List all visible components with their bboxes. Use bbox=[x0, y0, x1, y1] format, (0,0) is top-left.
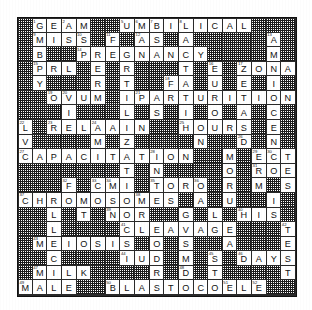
letter-cell-r14-c11[interactable]: V bbox=[179, 222, 194, 237]
letter-cell-r17-c18[interactable]: T bbox=[281, 266, 296, 281]
letter-cell-r2-c17[interactable]: M bbox=[267, 47, 282, 62]
letter-cell-r19-c14[interactable]: A bbox=[223, 295, 238, 296]
letter-cell-r2-c12[interactable]: Y bbox=[194, 47, 209, 62]
letter-cell-r14-c14[interactable]: E bbox=[223, 222, 238, 237]
letter-cell-r7-c5[interactable]: 24A bbox=[91, 120, 106, 135]
letter-cell-r5-c17[interactable]: O bbox=[267, 91, 282, 106]
letter-cell-r6-c3[interactable]: I bbox=[62, 105, 77, 120]
letter-cell-r7-c7[interactable]: I bbox=[120, 120, 135, 135]
letter-cell-r4-c5[interactable]: R bbox=[91, 76, 106, 91]
letter-cell-r18-c10[interactable]: T bbox=[164, 280, 179, 295]
letter-cell-r18-c1[interactable]: A bbox=[33, 280, 48, 295]
letter-cell-r0-c4[interactable]: M bbox=[77, 18, 92, 33]
letter-cell-r7-c0[interactable]: 22L bbox=[18, 120, 33, 135]
letter-cell-r18-c8[interactable]: A bbox=[135, 280, 150, 295]
letter-cell-r8-c5[interactable]: M bbox=[91, 135, 106, 150]
letter-cell-r3-c17[interactable]: N bbox=[267, 62, 282, 77]
letter-cell-r18-c0[interactable]: 49M bbox=[18, 280, 33, 295]
letter-cell-r13-c11[interactable]: G bbox=[179, 208, 194, 223]
letter-cell-r12-c8[interactable]: 38M bbox=[135, 193, 150, 208]
letter-cell-r2-c11[interactable]: C bbox=[179, 47, 194, 62]
letter-cell-r10-c9[interactable]: N bbox=[150, 164, 165, 179]
letter-cell-r14-c10[interactable]: A bbox=[164, 222, 179, 237]
letter-cell-r0-c10[interactable]: I bbox=[164, 18, 179, 33]
letter-cell-r18-c16[interactable]: 52E bbox=[252, 280, 267, 295]
letter-cell-r18-c13[interactable]: O bbox=[208, 280, 223, 295]
letter-cell-r2-c7[interactable]: G bbox=[120, 47, 135, 62]
letter-cell-r7-c13[interactable]: U bbox=[208, 120, 223, 135]
letter-cell-r12-c10[interactable]: S bbox=[164, 193, 179, 208]
letter-cell-r5-c3[interactable]: 20V bbox=[62, 91, 77, 106]
letter-cell-r11-c9[interactable]: 35T bbox=[150, 178, 165, 193]
letter-cell-r12-c1[interactable]: H bbox=[33, 193, 48, 208]
letter-cell-r15-c1[interactable]: 43M bbox=[33, 237, 48, 252]
letter-cell-r9-c8[interactable]: T bbox=[135, 149, 150, 164]
letter-cell-r19-c8[interactable]: E bbox=[135, 295, 150, 296]
letter-cell-r10-c14[interactable]: O bbox=[223, 164, 238, 179]
letter-cell-r18-c15[interactable]: L bbox=[237, 280, 252, 295]
letter-cell-r5-c16[interactable]: I bbox=[252, 91, 267, 106]
letter-cell-r12-c7[interactable]: O bbox=[120, 193, 135, 208]
letter-cell-r19-c13[interactable]: 53M bbox=[208, 295, 223, 296]
letter-cell-r13-c2[interactable]: L bbox=[47, 208, 62, 223]
letter-cell-r3-c18[interactable]: A bbox=[281, 62, 296, 77]
letter-cell-r0-c13[interactable]: C bbox=[208, 18, 223, 33]
letter-cell-r11-c18[interactable]: S bbox=[281, 178, 296, 193]
letter-cell-r15-c11[interactable]: S bbox=[179, 237, 194, 252]
letter-cell-r11-c3[interactable]: 32F bbox=[62, 178, 77, 193]
letter-cell-r10-c18[interactable]: E bbox=[281, 164, 296, 179]
letter-cell-r15-c9[interactable]: O bbox=[150, 237, 165, 252]
letter-cell-r15-c7[interactable]: S bbox=[120, 237, 135, 252]
letter-cell-r5-c5[interactable]: M bbox=[91, 91, 106, 106]
letter-cell-r15-c18[interactable]: E bbox=[281, 237, 296, 252]
letter-cell-r18-c11[interactable]: O bbox=[179, 280, 194, 295]
letter-cell-r5-c11[interactable]: T bbox=[179, 91, 194, 106]
letter-cell-r16-c15[interactable]: 46D bbox=[237, 251, 252, 266]
letter-cell-r7-c11[interactable]: 25H bbox=[179, 120, 194, 135]
letter-cell-r9-c16[interactable]: 29E bbox=[252, 149, 267, 164]
letter-cell-r7-c2[interactable]: 23R bbox=[47, 120, 62, 135]
letter-cell-r3-c15[interactable]: 17Z bbox=[237, 62, 252, 77]
letter-cell-r5-c4[interactable]: U bbox=[77, 91, 92, 106]
letter-cell-r6-c15[interactable]: A bbox=[237, 105, 252, 120]
letter-cell-r2-c6[interactable]: E bbox=[106, 47, 121, 62]
letter-cell-r1-c6[interactable]: 11F bbox=[106, 33, 121, 48]
letter-cell-r17-c4[interactable]: K bbox=[77, 266, 92, 281]
letter-cell-r5-c7[interactable]: I bbox=[120, 91, 135, 106]
letter-cell-r12-c3[interactable]: O bbox=[62, 193, 77, 208]
letter-cell-r13-c16[interactable]: I bbox=[252, 208, 267, 223]
letter-cell-r13-c8[interactable]: R bbox=[135, 208, 150, 223]
letter-cell-r13-c13[interactable]: L bbox=[208, 208, 223, 223]
letter-cell-r0-c12[interactable]: I bbox=[194, 18, 209, 33]
letter-cell-r9-c6[interactable]: T bbox=[106, 149, 121, 164]
letter-cell-r3-c11[interactable]: T bbox=[179, 62, 194, 77]
letter-cell-r16-c18[interactable]: S bbox=[281, 251, 296, 266]
letter-cell-r15-c5[interactable]: S bbox=[91, 237, 106, 252]
letter-cell-r3-c16[interactable]: O bbox=[252, 62, 267, 77]
letter-cell-r2-c9[interactable]: A bbox=[150, 47, 165, 62]
letter-cell-r9-c3[interactable]: A bbox=[62, 149, 77, 164]
letter-cell-r14-c13[interactable]: G bbox=[208, 222, 223, 237]
letter-cell-r2-c10[interactable]: N bbox=[164, 47, 179, 62]
letter-cell-r5-c2[interactable]: 19O bbox=[47, 91, 62, 106]
letter-cell-r16-c2[interactable]: C bbox=[47, 251, 62, 266]
letter-cell-r3-c1[interactable]: 15P bbox=[33, 62, 48, 77]
letter-cell-r10-c7[interactable]: T bbox=[120, 164, 135, 179]
letter-cell-r0-c14[interactable]: A bbox=[223, 18, 238, 33]
letter-cell-r16-c11[interactable]: M bbox=[179, 251, 194, 266]
letter-cell-r15-c6[interactable]: I bbox=[106, 237, 121, 252]
letter-cell-r17-c3[interactable]: L bbox=[62, 266, 77, 281]
letter-cell-r5-c9[interactable]: A bbox=[150, 91, 165, 106]
letter-cell-r7-c14[interactable]: R bbox=[223, 120, 238, 135]
letter-cell-r17-c9[interactable]: R bbox=[150, 266, 165, 281]
letter-cell-r0-c2[interactable]: E bbox=[47, 18, 62, 33]
letter-cell-r5-c13[interactable]: R bbox=[208, 91, 223, 106]
letter-cell-r6-c13[interactable]: O bbox=[208, 105, 223, 120]
letter-cell-r7-c12[interactable]: O bbox=[194, 120, 209, 135]
letter-cell-r4-c13[interactable]: U bbox=[208, 76, 223, 91]
letter-cell-r9-c11[interactable]: N bbox=[179, 149, 194, 164]
letter-cell-r13-c17[interactable]: S bbox=[267, 208, 282, 223]
letter-cell-r11-c5[interactable]: 33C bbox=[91, 178, 106, 193]
letter-cell-r16-c13[interactable]: 45S bbox=[208, 251, 223, 266]
letter-cell-r5-c10[interactable]: R bbox=[164, 91, 179, 106]
